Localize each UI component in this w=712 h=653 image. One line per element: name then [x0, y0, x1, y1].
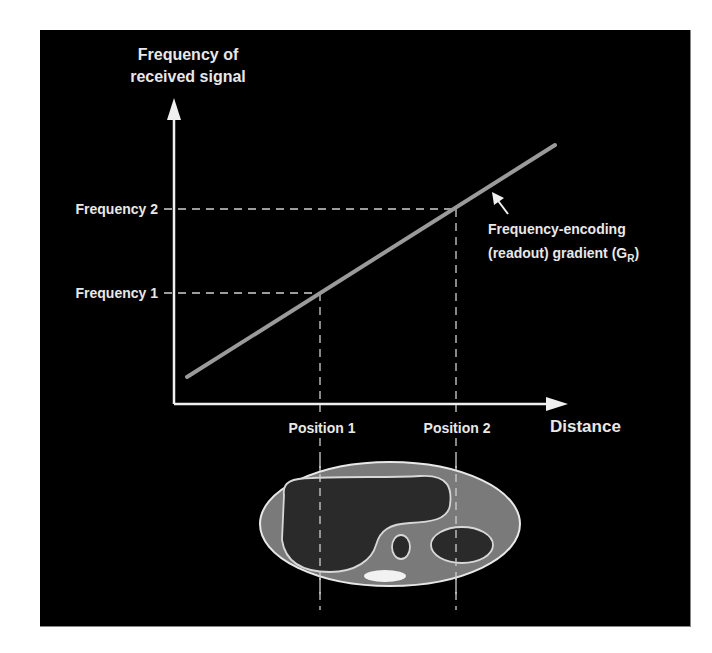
vessel-shape — [392, 535, 410, 559]
y-axis-label-line2: received signal — [130, 68, 246, 85]
frequency-1-label: Frequency 1 — [76, 285, 159, 301]
x-axis-arrow-icon — [546, 397, 568, 411]
gradient-label-line1: Frequency-encoding — [488, 221, 626, 237]
frequency-2-label: Frequency 2 — [76, 201, 159, 217]
spine-shape — [364, 570, 406, 582]
kidney-shape — [431, 527, 493, 563]
position-1-label: Position 1 — [289, 420, 356, 436]
y-axis-label-line1: Frequency of — [138, 46, 239, 63]
position-2-label: Position 2 — [424, 420, 491, 436]
frequency-encoding-diagram: Frequency of received signal Frequency 2… — [0, 0, 712, 653]
pointer-arrow-icon — [492, 192, 504, 205]
gradient-line — [187, 145, 555, 377]
y-axis-arrow-icon — [167, 98, 181, 120]
gradient-label-line2: (readout) gradient (GR) — [488, 245, 639, 264]
x-axis-label: Distance — [550, 417, 621, 436]
body-cross-section — [260, 462, 520, 586]
